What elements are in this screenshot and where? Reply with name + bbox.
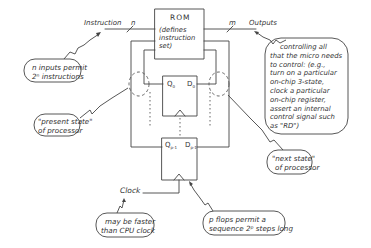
next-state-note: "next state" of processor bbox=[272, 154, 319, 172]
flipflop-top-q: Q0 bbox=[167, 81, 175, 89]
rom-title: ROM bbox=[170, 14, 191, 22]
rom-subtitle: (defines instruction set) bbox=[159, 26, 195, 50]
note-line: than CPU clock bbox=[101, 226, 155, 235]
note-line: on-chip 3-state, bbox=[270, 78, 342, 87]
note-line: control signal such bbox=[270, 113, 342, 122]
arrowhead-inputs bbox=[96, 32, 101, 37]
flipflop-bottom-q: Qp-1 bbox=[165, 142, 177, 150]
note-line: sequence 2ᵖ steps long bbox=[209, 224, 293, 233]
clock-triangle-top bbox=[175, 110, 185, 116]
q-subscript: p-1 bbox=[171, 145, 178, 150]
wire-inner-right bbox=[197, 50, 216, 84]
note-line: p flops permit a bbox=[209, 215, 293, 224]
rom-subtitle-line: set) bbox=[159, 42, 195, 50]
rom-subtitle-line: (defines bbox=[159, 26, 195, 34]
arrowhead-flops bbox=[189, 181, 193, 186]
note-line: controlling all bbox=[270, 43, 342, 52]
note-line: that the micro needs bbox=[270, 52, 342, 61]
note-line: of processor bbox=[38, 126, 93, 135]
pointer-present-state bbox=[80, 88, 128, 118]
wire-inner-left bbox=[144, 50, 163, 84]
note-line: clock a particular bbox=[270, 87, 342, 96]
inputs-note: n inputs permit 2ⁿ instructions bbox=[32, 63, 87, 81]
d-subscript: 0 bbox=[192, 84, 195, 89]
note-line: "present state" bbox=[38, 117, 93, 126]
d-subscript: p-1 bbox=[190, 145, 197, 150]
note-line: to control: (e.g., bbox=[270, 61, 342, 70]
outputs-note: controlling all that the micro needs to … bbox=[270, 43, 342, 131]
outputs-width-label: m bbox=[229, 20, 236, 27]
clock-triangle-bottom bbox=[174, 174, 184, 180]
flipflop-bottom-d: Dp-1 bbox=[185, 142, 197, 150]
clock-label: Clock bbox=[120, 187, 140, 195]
rom-subtitle-line: instruction bbox=[159, 34, 195, 42]
note-line: on-chip register, bbox=[270, 96, 342, 105]
note-line: may be faster bbox=[101, 217, 155, 226]
present-state-note: "present state" of processor bbox=[38, 117, 93, 135]
arrowhead-clock bbox=[122, 198, 126, 202]
pointer-inputs bbox=[64, 34, 99, 59]
note-line: "next state" bbox=[272, 154, 319, 163]
flipflop-top-d: D0 bbox=[187, 81, 195, 89]
note-line: 2ⁿ instructions bbox=[32, 72, 87, 81]
outputs-label: Outputs bbox=[249, 20, 277, 27]
instruction-width-label: n bbox=[131, 20, 135, 27]
flops-note: p flops permit a sequence 2ᵖ steps long bbox=[209, 215, 293, 233]
note-line: n inputs permit bbox=[32, 63, 87, 72]
pointer-flops bbox=[190, 183, 213, 211]
clock-wire bbox=[143, 180, 179, 193]
note-line: of processor bbox=[272, 163, 319, 172]
note-line: assert an internal bbox=[270, 105, 342, 114]
arrowhead-outputs bbox=[254, 31, 259, 35]
wire-outer-left bbox=[131, 41, 162, 147]
q-subscript: 0 bbox=[173, 84, 176, 89]
note-line: turn on a particular bbox=[270, 69, 342, 78]
note-line: as "RD") bbox=[270, 122, 342, 131]
instruction-label: Instruction bbox=[84, 20, 121, 27]
clock-note: may be faster than CPU clock bbox=[101, 217, 155, 235]
